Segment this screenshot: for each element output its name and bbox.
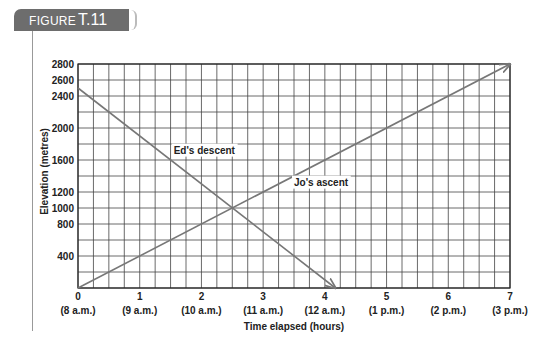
series-label: Ed's descent (172, 144, 238, 157)
y-tick-label: 1000 (52, 203, 75, 214)
x-tick-sublabel: (11 a.m.) (243, 305, 283, 316)
y-axis-title: Elevation (metres) (39, 112, 50, 232)
y-tick-label: 2400 (52, 91, 75, 102)
series-label: Jo's ascent (292, 176, 351, 189)
x-tick-label: 1 (137, 291, 143, 302)
x-tick-sublabel: (12 a.m.) (305, 305, 346, 316)
y-tick-label: 2800 (52, 59, 75, 70)
y-tick-label: 400 (57, 251, 74, 262)
x-tick-label: 7 (507, 291, 513, 302)
y-axis-ticks: 4008001000120016002000240026002800 (52, 59, 75, 262)
x-tick-sublabel: (10 a.m.) (181, 305, 222, 316)
x-tick-sublabel: (2 p.m.) (431, 305, 467, 316)
svg-text:Jo's ascent: Jo's ascent (294, 177, 349, 188)
y-tick-label: 800 (57, 219, 74, 230)
x-tick-label: 0 (75, 291, 81, 302)
x-tick-label: 5 (384, 291, 390, 302)
y-tick-label: 2000 (52, 123, 75, 134)
y-tick-label: 1200 (52, 187, 75, 198)
x-axis-ticks: 0(8 a.m.)1(9 a.m.)2(10 a.m.)3(11 a.m.)4(… (60, 291, 527, 316)
x-tick-label: 4 (322, 291, 328, 302)
y-tick-label: 1600 (52, 155, 75, 166)
y-tick-label: 2600 (52, 75, 75, 86)
svg-text:Ed's descent: Ed's descent (174, 145, 236, 156)
x-tick-sublabel: (3 p.m.) (492, 305, 528, 316)
x-axis-title: Time elapsed (hours) (244, 321, 344, 332)
x-tick-sublabel: (9 a.m.) (122, 305, 157, 316)
x-tick-sublabel: (1 p.m.) (369, 305, 405, 316)
line-chart: 4008001000120016002000240026002800 0(8 a… (0, 0, 553, 356)
x-tick-label: 2 (199, 291, 205, 302)
x-tick-sublabel: (8 a.m.) (60, 305, 95, 316)
x-tick-label: 3 (260, 291, 266, 302)
x-tick-label: 6 (446, 291, 452, 302)
